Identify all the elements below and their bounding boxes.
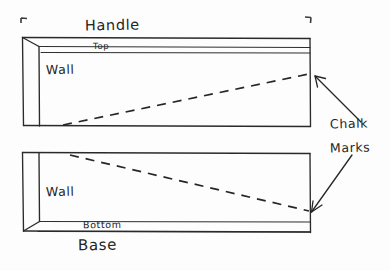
label-wall-upper: Wall	[46, 64, 75, 77]
corner-mark-top-left	[21, 18, 27, 23]
corner-mark-top-right	[305, 17, 311, 23]
diagram-svg	[0, 0, 390, 271]
upper-box-handle	[23, 38, 311, 127]
hand-drawn-diagram-canvas: Handle Top Wall Wall Bottom Base Chalk M…	[0, 0, 390, 271]
label-handle: Handle	[85, 17, 140, 33]
label-top: Top	[93, 42, 109, 51]
label-marks: Marks	[330, 142, 371, 155]
chalk-arrow-lower	[312, 155, 353, 212]
chalk-line-upper	[63, 74, 309, 125]
label-bottom: Bottom	[83, 220, 122, 230]
chalk-line-lower	[70, 155, 309, 211]
label-wall-lower: Wall	[46, 186, 75, 199]
label-base: Base	[78, 238, 117, 254]
label-chalk: Chalk	[330, 118, 368, 131]
